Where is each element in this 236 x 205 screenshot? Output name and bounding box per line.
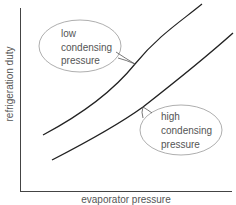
- y-axis-label: refrigeration duty: [4, 46, 15, 121]
- callout-high-condensing-pressure: high condensing pressure: [140, 105, 222, 155]
- callout-low-line3: pressure: [61, 55, 100, 66]
- callout-high-line1: high: [161, 111, 180, 122]
- callout-high-line3: pressure: [161, 139, 200, 150]
- callout-low-line1: low: [61, 28, 77, 39]
- x-axis-label: evaporator pressure: [81, 194, 171, 205]
- chart-canvas: low condensing pressure high condensing …: [0, 0, 236, 205]
- callout-low-condensing-pressure: low condensing pressure: [39, 20, 135, 72]
- callout-high-line2: condensing: [161, 125, 212, 136]
- callout-low-line2: condensing: [61, 42, 112, 53]
